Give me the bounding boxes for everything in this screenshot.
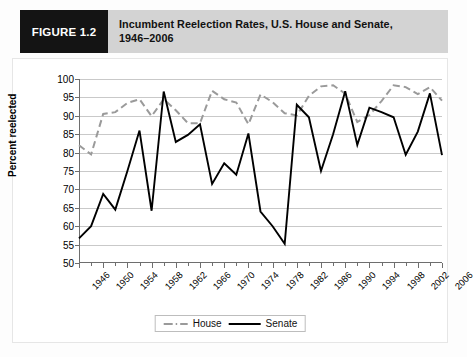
x-axis-tick-label: 1962 xyxy=(187,270,209,292)
figure-title-line-1: Incumbent Reelection Rates, U.S. House a… xyxy=(119,18,442,32)
x-axis-tick xyxy=(248,263,249,268)
x-axis-tick-label: 2002 xyxy=(429,270,451,292)
x-axis-tick-label: 1994 xyxy=(380,270,402,292)
x-axis-tick xyxy=(418,263,419,268)
x-axis-tick xyxy=(406,263,407,266)
x-axis-tick xyxy=(176,263,177,268)
x-axis-tick xyxy=(127,263,128,268)
x-axis-tick xyxy=(285,263,286,266)
legend-item-house: House xyxy=(163,318,222,329)
y-axis-tick-label: 85 xyxy=(63,129,74,140)
figure-title-bar: Incumbent Reelection Rates, U.S. House a… xyxy=(108,10,448,53)
x-axis-tick xyxy=(91,263,92,266)
y-axis-title: Percent reelected xyxy=(7,94,18,177)
y-axis-tick-label: 90 xyxy=(63,110,74,121)
x-axis-tick xyxy=(357,263,358,266)
y-axis-tick-label: 60 xyxy=(63,221,74,232)
x-axis-tick xyxy=(261,263,262,266)
series-line-senate xyxy=(79,91,442,244)
x-axis-tick xyxy=(212,263,213,266)
series-lines xyxy=(79,79,442,263)
x-axis-tick-label: 1990 xyxy=(356,270,378,292)
figure-header: FIGURE 1.2 Incumbent Reelection Rates, U… xyxy=(20,10,448,53)
x-axis-tick-label: 1970 xyxy=(235,270,257,292)
x-axis-tick-label: 1946 xyxy=(90,270,112,292)
x-axis-tick xyxy=(321,263,322,268)
legend-item-senate: Senate xyxy=(228,318,298,329)
x-axis-tick-label: 1978 xyxy=(284,270,306,292)
x-axis-tick xyxy=(164,263,165,266)
y-axis-tick-label: 75 xyxy=(63,166,74,177)
x-axis-tick xyxy=(273,263,274,268)
y-axis-tick-label: 50 xyxy=(63,258,74,269)
x-axis-tick-label: 1958 xyxy=(163,270,185,292)
x-axis-tick xyxy=(382,263,383,266)
x-axis-tick xyxy=(224,263,225,268)
x-axis-tick-label: 1986 xyxy=(332,270,354,292)
chart-legend: House Senate xyxy=(155,315,306,332)
y-axis-tick-label: 70 xyxy=(63,184,74,195)
x-axis-tick-label: 1966 xyxy=(211,270,233,292)
legend-label-house: House xyxy=(193,318,222,329)
series-line-house xyxy=(79,85,442,154)
y-axis-tick-label: 65 xyxy=(63,202,74,213)
x-axis-tick-label: 1950 xyxy=(114,270,136,292)
x-axis-tick xyxy=(115,263,116,266)
x-axis-tick xyxy=(152,263,153,268)
x-axis-tick xyxy=(79,263,80,268)
y-axis-tick-label: 95 xyxy=(63,92,74,103)
x-axis-tick xyxy=(430,263,431,266)
x-axis-tick xyxy=(200,263,201,268)
figure-number-label: FIGURE 1.2 xyxy=(32,26,97,38)
x-axis-tick xyxy=(333,263,334,266)
x-axis-tick xyxy=(369,263,370,268)
x-axis-tick-label: 1974 xyxy=(259,270,281,292)
x-axis-tick-label: 1982 xyxy=(308,270,330,292)
x-axis-tick xyxy=(394,263,395,268)
x-axis-tick xyxy=(236,263,237,266)
x-axis-tick-label: 1954 xyxy=(138,270,160,292)
y-axis-tick-label: 55 xyxy=(63,239,74,250)
chart-frame: Percent reelected 5055606570758085909510… xyxy=(12,58,448,343)
x-axis-tick-label: 1998 xyxy=(405,270,427,292)
figure-number-badge: FIGURE 1.2 xyxy=(20,10,108,53)
legend-swatch-senate xyxy=(228,320,262,328)
x-axis-tick-label: 2006 xyxy=(453,270,475,292)
y-axis-tick-label: 100 xyxy=(57,74,74,85)
x-axis-tick xyxy=(140,263,141,266)
legend-swatch-house xyxy=(163,320,189,328)
legend-label-senate: Senate xyxy=(266,318,298,329)
plot-area: 50556065707580859095100 1946195019541958… xyxy=(79,79,442,263)
x-axis-tick xyxy=(345,263,346,268)
x-axis-tick xyxy=(442,263,443,268)
x-axis-tick xyxy=(309,263,310,266)
figure-title-line-2: 1946–2006 xyxy=(119,32,442,46)
y-axis-tick-label: 80 xyxy=(63,147,74,158)
x-axis-tick xyxy=(297,263,298,268)
x-axis-tick xyxy=(188,263,189,266)
x-axis-tick xyxy=(103,263,104,268)
